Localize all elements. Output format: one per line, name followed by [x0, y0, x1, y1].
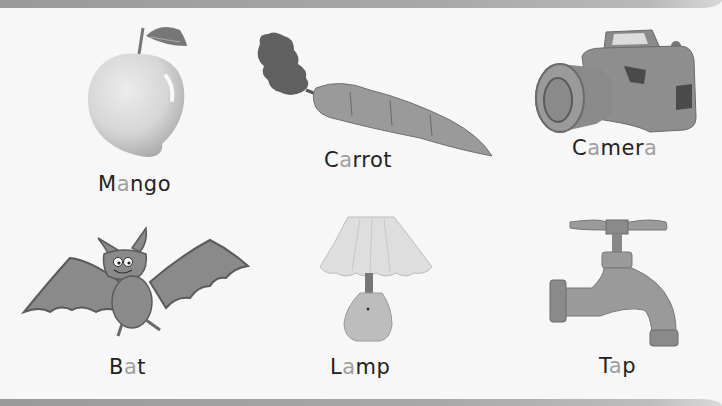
label-mango: Mango — [98, 172, 171, 196]
label-lamp: Lamp — [330, 355, 390, 379]
carrot-icon — [240, 20, 500, 160]
label-tap: Tap — [599, 354, 636, 378]
lamp-icon — [300, 215, 440, 355]
card-camera: Camera — [530, 20, 710, 170]
label-bat: Bat — [109, 355, 146, 379]
tap-icon — [540, 210, 700, 350]
top-border-band — [0, 0, 722, 8]
card-lamp: Lamp — [300, 215, 440, 390]
bat-icon — [10, 220, 260, 350]
card-tap: Tap — [540, 210, 700, 390]
card-mango: Mango — [40, 20, 220, 200]
label-camera: Camera — [572, 136, 657, 160]
mango-icon — [40, 20, 220, 170]
card-bat: Bat — [10, 220, 260, 390]
bottom-border-band — [0, 399, 722, 406]
camera-icon — [530, 20, 710, 140]
card-carrot: Carrot — [240, 20, 500, 180]
label-carrot: Carrot — [324, 148, 392, 172]
